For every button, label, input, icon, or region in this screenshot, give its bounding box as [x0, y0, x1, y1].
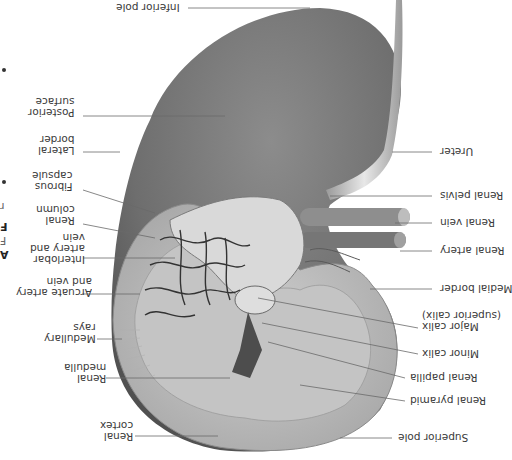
renal-vein-vessel: [300, 208, 410, 226]
label-arcuate: Arcuate artery and vein: [16, 276, 92, 298]
label-renal-cortex: Renal cortex: [100, 420, 133, 442]
label-medullary-rays: Medullary rays: [44, 322, 96, 344]
label-medial-border: Medial border: [440, 283, 512, 294]
label-interlobar: Interlobar artery and vein: [30, 232, 85, 265]
renal-artery-vessel: [300, 232, 406, 248]
label-superior-pole: Superior pole: [398, 432, 468, 443]
edge-fragment: F: [0, 234, 6, 247]
edge-fragment: A: [0, 248, 9, 261]
label-renal-medulla: Renal medulla: [64, 362, 106, 384]
label-renal-column: Renal column: [36, 204, 75, 226]
label-posterior-surface: Posterior surface: [28, 96, 74, 118]
label-fibrous-capsule: Fibrous capsule: [32, 170, 72, 192]
label-renal-artery: Renal artery: [440, 245, 505, 256]
label-renal-pelvis: Renal pelvis: [440, 190, 503, 201]
edge-fragment: F: [0, 220, 8, 233]
label-minor-calix: Minor calix: [422, 348, 479, 359]
label-inferior-pole: Inferior pole: [116, 2, 180, 13]
bullet-dot: [2, 180, 6, 184]
label-renal-papilla: Renal papilla: [410, 372, 478, 383]
bullet-dot: [2, 68, 6, 72]
edge-fragment: r: [0, 200, 5, 213]
label-major-calix: Major calix (superior calix): [422, 310, 501, 332]
label-ureter: Ureter: [440, 146, 473, 157]
label-renal-vein: Renal vein: [440, 217, 495, 228]
label-renal-pyramid: Renal pyramid: [410, 395, 486, 406]
label-lateral-border: Lateral border: [38, 134, 75, 156]
